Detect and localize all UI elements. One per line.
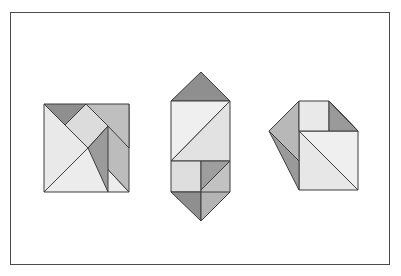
piece-square-lower-left bbox=[171, 161, 201, 192]
figure-root bbox=[0, 0, 401, 276]
piece-roof-square bbox=[299, 101, 329, 131]
tangram-square-left bbox=[44, 104, 129, 192]
piece-bottom-triangle-right bbox=[201, 192, 230, 221]
tangram-illustration bbox=[0, 0, 401, 276]
tangram-house-middle bbox=[171, 72, 230, 221]
tangram-house-right bbox=[269, 101, 358, 190]
piece-roof-triangle-top bbox=[171, 72, 230, 101]
piece-bottom-triangle bbox=[171, 192, 201, 221]
